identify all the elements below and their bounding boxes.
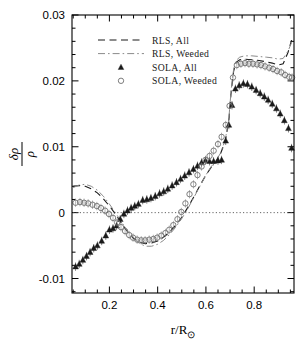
series-rls-weeded (73, 43, 291, 247)
x-axis-title-text: r/R (171, 322, 188, 337)
y-axis-title: δρ ρ (6, 142, 37, 166)
y-tick-label: 0.01 (43, 141, 65, 153)
x-tick-label: 0.4 (150, 299, 167, 311)
x-tick-label: 0.2 (101, 299, 117, 311)
figure-container: 0.20.40.60.8 0.030.020.010-0.01 RLS, All… (0, 0, 308, 343)
y-axis-title-numerator: δρ (6, 148, 21, 160)
x-axis-title: r/R⊙ (171, 322, 196, 340)
x-tick-label: 0.8 (246, 299, 262, 311)
chart-legend: RLS, AllRLS, WeededSOLA, AllSOLA, Weeded (98, 35, 217, 87)
series-sola-all (73, 79, 295, 271)
solar-radius-symbol: ⊙ (187, 329, 195, 340)
y-tick-label: -0.01 (39, 273, 65, 285)
legend-item-rls-all: RLS, All (98, 35, 189, 46)
y-tick-label: 0.02 (43, 75, 65, 87)
series-sola-weeded (73, 59, 295, 245)
legend-label: RLS, Weeded (152, 48, 209, 59)
y-axis-title-denominator: ρ (22, 151, 37, 158)
legend-label: SOLA, Weeded (152, 75, 217, 86)
legend-item-sola-weeded: SOLA, Weeded (118, 75, 217, 86)
x-axis-tick-labels: 0.20.40.60.8 (101, 299, 262, 311)
legend-label: SOLA, All (152, 62, 197, 73)
y-tick-label: 0.03 (43, 9, 65, 21)
legend-item-sola-all: SOLA, All (118, 62, 197, 73)
y-axis-tick-labels: 0.030.020.010-0.01 (39, 9, 65, 285)
legend-label: RLS, All (152, 35, 189, 46)
svg-text:r/R⊙: r/R⊙ (171, 322, 196, 340)
x-tick-label: 0.6 (198, 299, 214, 311)
chart-plot: 0.20.40.60.8 0.030.020.010-0.01 RLS, All… (0, 0, 308, 343)
legend-item-rls-weeded: RLS, Weeded (98, 48, 209, 59)
y-tick-label: 0 (59, 207, 65, 219)
